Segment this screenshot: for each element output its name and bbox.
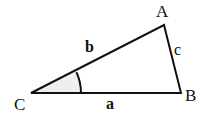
- side-label-b: b: [85, 38, 94, 55]
- vertex-label-b: B: [185, 86, 196, 105]
- triangle-diagram: A B C b a c: [0, 0, 211, 121]
- side-label-a: a: [106, 95, 114, 112]
- side-label-c: c: [174, 41, 181, 58]
- vertex-label-c: C: [14, 95, 25, 114]
- vertex-label-a: A: [156, 2, 169, 21]
